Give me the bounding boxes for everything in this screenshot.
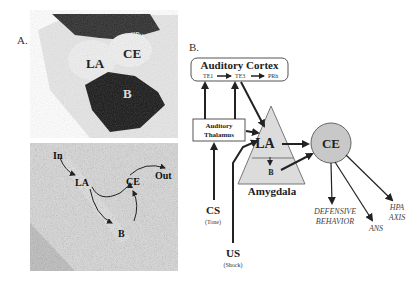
amygdala-label: Amygdala (248, 185, 297, 197)
ce-to-hpa-arrow (346, 155, 392, 200)
ce-label: CE (322, 136, 340, 151)
ce-to-defensive-arrow (331, 163, 332, 203)
area-prh: PRh (268, 73, 278, 79)
us-label: US (226, 247, 240, 259)
cs-sub-label: (Tone) (205, 219, 221, 226)
b-label: B (268, 168, 274, 177)
thalamus-to-la-arrow (246, 131, 258, 133)
cs-label: CS (206, 204, 220, 216)
thalamus-line2: Thalamus (204, 131, 234, 139)
us-sub-label: (Shock) (224, 262, 243, 269)
la-label: LA (255, 136, 275, 151)
ans-label: ANS (368, 224, 383, 233)
area-te3: TE3 (235, 73, 245, 79)
defensive-line1: DEFENSIVE (313, 207, 356, 216)
defensive-line2: BEHAVIOR (316, 217, 354, 226)
thalamus-line1: Auditory (205, 122, 233, 130)
hpa-line1: HPA (389, 203, 405, 212)
hpa-line2: AXIS (388, 213, 405, 222)
auditory-cortex-title: Auditory Cortex (201, 59, 279, 71)
area-te1: TE1 (203, 73, 213, 79)
fear-circuit-diagram: Auditory Cortex TE1 TE3 PRh Auditory Tha… (0, 0, 419, 283)
